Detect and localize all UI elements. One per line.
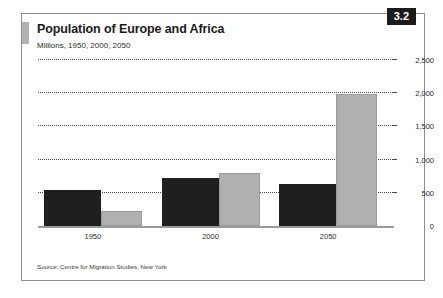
bar-europe-2050 — [279, 184, 336, 226]
page-title: Population of Europe and Africa — [37, 22, 224, 36]
chart-figure: Population of Europe and Africa Millions… — [21, 13, 425, 281]
x-axis-baseline — [38, 226, 394, 228]
bar-europe-1950 — [44, 190, 101, 226]
y-tick-label: 500 — [400, 188, 434, 197]
bar-africa-1950 — [101, 211, 142, 226]
x-tick-label-2000: 2000 — [202, 232, 219, 241]
chart-subtitle: Millions, 1950, 2000, 2050 — [37, 41, 130, 50]
source-note: Source: Centre for Migration Studies, Ne… — [37, 263, 167, 270]
y-axis-tick — [392, 192, 397, 193]
y-axis-tick — [392, 92, 397, 93]
bar-africa-2050 — [336, 94, 377, 226]
title-accent-bar — [22, 22, 29, 44]
y-tick-label: 2,000 — [400, 89, 434, 98]
y-axis-tick — [392, 59, 397, 60]
gridline-2500 — [38, 59, 391, 60]
y-axis-tick — [392, 125, 397, 126]
x-tick-label-1950: 1950 — [84, 232, 101, 241]
y-tick-label: 0 — [400, 222, 434, 231]
y-tick-label: 1,000 — [400, 155, 434, 164]
gridline-2000 — [38, 92, 391, 93]
y-axis-tick — [392, 159, 397, 160]
y-tick-label: 1,500 — [400, 122, 434, 131]
bar-africa-2000 — [219, 173, 260, 226]
bar-europe-2000 — [162, 178, 219, 226]
plot-area — [38, 60, 391, 226]
figure-number-badge: 3.2 — [387, 8, 416, 25]
x-tick-label-2050: 2050 — [320, 232, 337, 241]
y-tick-label: 2,500 — [400, 56, 434, 65]
